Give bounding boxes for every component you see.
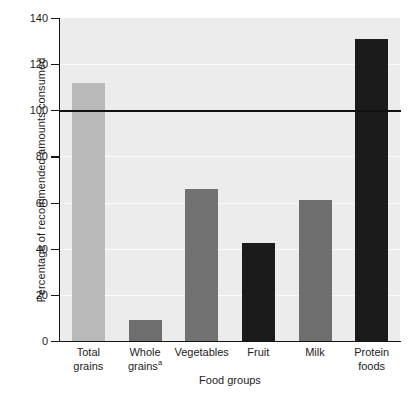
reference-line-100-percent [59,110,401,112]
y-tick-mark [51,203,59,204]
y-tick-label: 120 [2,58,48,70]
plot-area [60,18,400,341]
x-axis-category-label: Totalgrains [60,346,117,373]
bar [355,39,388,341]
gridline [60,64,400,65]
y-axis-title: Percentage of recommended amounts consum… [35,45,47,315]
gridline [60,249,400,250]
gridline [60,203,400,204]
bar-chart: Percentage of recommended amounts consum… [0,0,412,394]
y-tick-label: 20 [2,289,48,301]
y-tick-label: 0 [2,335,48,347]
y-tick-mark [51,156,59,157]
bar [185,189,218,341]
y-tick-mark [51,249,59,250]
bar [299,200,332,341]
y-tick-label: 100 [2,104,48,116]
y-tick-label: 80 [2,150,48,162]
gridline [60,156,400,157]
bar [72,83,105,341]
y-tick-mark [51,64,59,65]
x-axis-title: Food groups [60,374,400,386]
y-tick-mark [51,341,59,342]
y-tick-mark [51,18,59,19]
x-axis-category-label: Wholegrainsa [117,346,174,373]
gridline [60,295,400,296]
y-tick-mark [51,110,59,111]
y-tick-label: 40 [2,243,48,255]
bar [129,320,162,341]
x-axis-category-label: Vegetables [173,346,230,360]
x-axis-category-label: Milk [287,346,344,360]
x-axis-category-label: Fruit [230,346,287,360]
bar [242,243,275,341]
footnote-marker: a [158,358,162,367]
y-tick-mark [51,295,59,296]
y-axis-line [59,18,60,342]
y-tick-label: 140 [2,12,48,24]
x-axis-category-label: Proteinfoods [343,346,400,373]
y-tick-label: 60 [2,197,48,209]
x-axis-line [59,341,401,342]
